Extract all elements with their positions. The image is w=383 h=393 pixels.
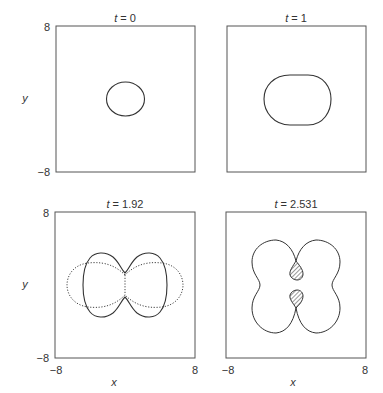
hatched-region-lower	[290, 290, 303, 308]
figure: t = 0 8 −8 y t = 1 t = 1.92 8 −8 y −8 8 …	[0, 0, 383, 393]
x-axis-label: x	[289, 376, 296, 388]
ytick-top: 8	[43, 207, 49, 219]
ytick-bottom: −8	[36, 352, 49, 364]
plot-frame	[56, 26, 195, 172]
plot-frame	[226, 212, 366, 358]
curve-outer	[252, 240, 340, 333]
plot-frame	[55, 212, 195, 358]
y-axis-label: y	[21, 92, 29, 104]
panel-t1: t = 1	[227, 12, 366, 172]
panel-t2531: t = 2.531 −8 8 x	[222, 198, 368, 388]
curve-oval	[264, 75, 331, 125]
ytick-top: 8	[44, 21, 50, 33]
panel-title: t = 1.92	[106, 198, 143, 210]
panel-t0: t = 0 8 −8 y	[21, 12, 195, 178]
hatched-region-upper	[290, 261, 303, 280]
xtick-right: 8	[362, 364, 368, 376]
curve-circle	[107, 82, 145, 116]
xtick-right: 8	[192, 364, 198, 376]
ytick-bottom: −8	[37, 166, 50, 178]
xtick-left: −8	[50, 364, 63, 376]
panel-title: t = 0	[114, 12, 136, 24]
panel-title: t = 1	[285, 12, 307, 24]
plot-frame	[227, 26, 366, 172]
y-axis-label: y	[21, 278, 29, 290]
panel-t192: t = 1.92 8 −8 y −8 8 x	[21, 198, 198, 388]
xtick-left: −8	[222, 364, 235, 376]
panel-title: t = 2.531	[274, 198, 317, 210]
x-axis-label: x	[110, 376, 117, 388]
